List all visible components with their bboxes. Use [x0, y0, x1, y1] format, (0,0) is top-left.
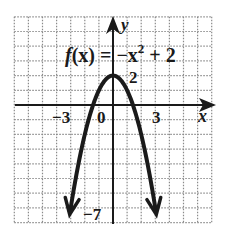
- tick-label-neg3: −3: [52, 108, 70, 127]
- tick-label-2: 2: [129, 68, 138, 87]
- tick-label-3: 3: [152, 108, 161, 127]
- y-axis-label: y: [119, 15, 129, 34]
- x-axis-label: x: [197, 106, 207, 126]
- tick-label-neg7: −7: [83, 205, 102, 224]
- tick-label-0: 0: [97, 108, 106, 127]
- equation-label: f(x) = −x2 + 2: [65, 41, 176, 67]
- function-graph: y x f(x) = −x2 + 2 2 −3 0 3 −7: [0, 0, 227, 227]
